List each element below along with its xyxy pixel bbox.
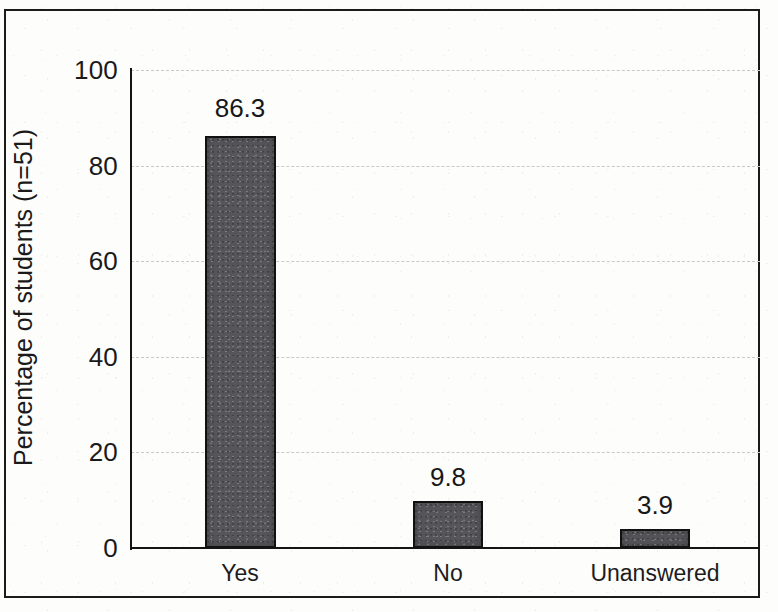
bar-texture (622, 531, 688, 546)
bar-texture (415, 503, 481, 546)
bar-no (413, 501, 483, 548)
x-tick-label-yes: Yes (221, 560, 259, 587)
bar-texture (207, 138, 274, 547)
x-tick-label-unanswered: Unanswered (590, 560, 719, 587)
bar-yes (205, 136, 276, 549)
scanned-page: 100 80 60 40 20 0 Percentage of students… (0, 0, 778, 612)
value-label-yes: 86.3 (215, 93, 266, 124)
value-label-unanswered: 3.9 (637, 490, 673, 521)
bar-unanswered (620, 529, 690, 548)
y-axis-line (130, 68, 132, 550)
gridline-100 (131, 70, 760, 71)
value-label-no: 9.8 (430, 462, 466, 493)
x-axis-line (130, 547, 760, 549)
y-axis-title: Percentage of students (n=51) (9, 38, 38, 558)
x-tick-label-no: No (433, 560, 462, 587)
